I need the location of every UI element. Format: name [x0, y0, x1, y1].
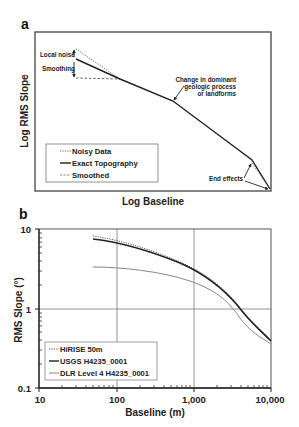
y-tick-10: 10 [20, 224, 31, 235]
panel-a-y-label: Log RMS Slope [19, 74, 30, 148]
panel-b-letter: b [19, 206, 28, 222]
legend-usgs-h4235: USGS H4235_0001 [60, 357, 128, 366]
change-arrow [174, 86, 184, 100]
x-tick-10: 10 [35, 394, 46, 405]
legend-exact-topography: Exact Topography [72, 159, 138, 168]
panel-b-y-label: RMS Slope (°) [13, 277, 24, 343]
x-tick-100: 100 [109, 394, 125, 405]
legend-noisy-data: Noisy Data [72, 147, 112, 156]
dlr-level4-line [93, 267, 271, 344]
change-label-line3: or landforms [198, 90, 237, 97]
end-effects-arrow-1 [244, 164, 251, 178]
local-noise-label: Local noise [40, 51, 75, 58]
panel-a: a Local noise Smoothing Change in domina… [19, 16, 271, 207]
legend-smoothed: Smoothed [72, 171, 109, 180]
smoothing-label: Smoothing [42, 65, 75, 73]
legend-dlr-level4: DLR Level 4 H4235_0001 [60, 369, 150, 378]
panel-b-legend: HiRISE 50m USGS H4235_0001 DLR Level 4 H… [45, 342, 157, 380]
legend-hirise-50m: HiRISE 50m [60, 345, 103, 354]
figure: a Local noise Smoothing Change in domina… [0, 0, 299, 427]
panel-b-x-label: Baseline (m) [125, 407, 184, 418]
panel-b: b [13, 206, 285, 418]
noisy-data-line [76, 49, 120, 79]
panel-a-legend: Noisy Data Exact Topography Smoothed [46, 144, 158, 182]
x-tick-10000: 10,000 [255, 394, 284, 405]
end-effects-label: End effects [209, 175, 243, 182]
end-effects-arrow-2 [245, 181, 268, 189]
usgs-h4235-line [93, 239, 271, 341]
hirise-50m-line [93, 236, 271, 340]
x-tick-1000: 1,000 [182, 394, 206, 405]
y-tick-1: 1 [26, 304, 32, 315]
panel-a-letter: a [21, 16, 29, 32]
y-tick-0-1: 0.1 [18, 383, 32, 394]
panel-a-x-label: Log Baseline [122, 196, 185, 207]
smoothed-line [76, 78, 120, 79]
